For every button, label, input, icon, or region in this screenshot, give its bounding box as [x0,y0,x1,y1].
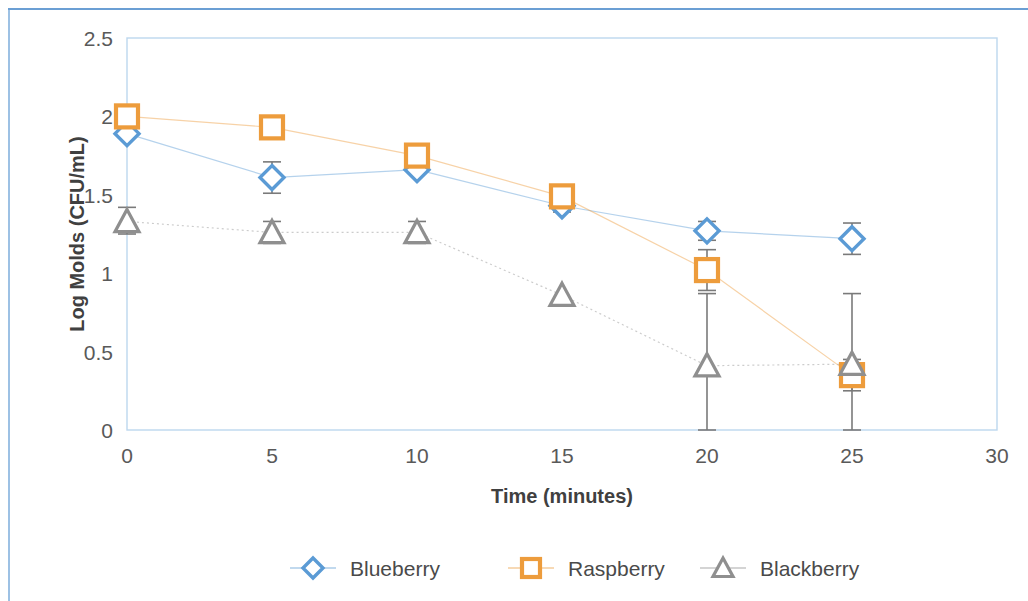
data-point-blueberry-20 [695,219,719,243]
chart-legend: BlueberryRaspberryBlackberry [290,557,860,580]
data-point-blackberry-20 [695,354,719,376]
plot-area-border [127,38,997,430]
y-tick-label: 1.5 [84,184,113,207]
series-markers-group [115,105,864,386]
data-point-raspberry-15 [551,185,573,207]
x-tick-label: 20 [695,444,718,467]
series-lines-group [127,116,852,375]
data-point-raspberry-0 [116,105,138,127]
data-point-raspberry-10 [406,145,428,167]
data-point-blackberry-10 [405,220,429,242]
data-point-raspberry-5 [261,116,283,138]
x-tick-label: 10 [405,444,428,467]
y-tick-label: 2.5 [84,27,113,50]
x-tick-label: 30 [985,444,1008,467]
legend-label-blackberry: Blackberry [760,557,860,580]
data-point-blueberry-25 [840,227,864,251]
legend-marker-raspberry [522,559,540,577]
data-point-blueberry-5 [260,166,284,190]
series-line-blackberry [127,221,852,365]
x-tick-label: 25 [840,444,863,467]
y-tick-label: 0.5 [84,341,113,364]
legend-label-blueberry: Blueberry [350,557,440,580]
series-line-blueberry [127,134,852,239]
data-point-blackberry-15 [550,283,574,305]
legend-marker-blackberry [713,558,733,577]
y-axis-tick-labels: 00.511.522.5 [84,27,113,442]
x-axis-title: Time (minutes) [491,485,633,507]
data-point-blackberry-0 [115,209,139,231]
mold-reduction-line-chart: 00.511.522.5 051015202530 Time (minutes)… [0,0,1028,601]
x-tick-label: 15 [550,444,573,467]
y-tick-label: 1 [101,262,113,285]
error-bars-group [118,162,861,430]
legend-label-raspberry: Raspberry [568,557,665,580]
y-axis-title: Log Molds (CFU/mL) [66,136,88,332]
y-tick-label: 0 [101,419,113,442]
x-axis-tick-labels: 051015202530 [121,444,1009,467]
x-tick-label: 0 [121,444,133,467]
chart-figure: 00.511.522.5 051015202530 Time (minutes)… [0,0,1028,601]
series-line-raspberry [127,116,852,375]
chart-svg: 00.511.522.5 051015202530 Time (minutes)… [0,0,1028,601]
legend-marker-blueberry [303,558,323,578]
x-tick-label: 5 [266,444,278,467]
y-tick-label: 2 [101,105,113,128]
data-point-raspberry-20 [696,259,718,281]
